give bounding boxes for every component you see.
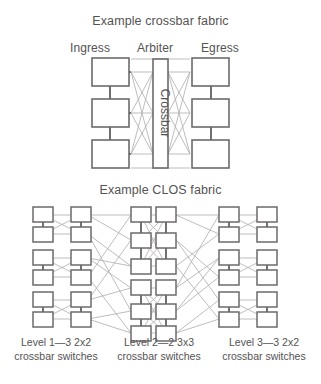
diagram-page: Example crossbar fabric Ingress Arbiter …	[0, 0, 321, 384]
egress-port-1	[192, 58, 229, 86]
crossbar-slab-label: Crossbar	[158, 89, 172, 138]
egress-port-3	[192, 140, 229, 168]
caption-level-2: Level 2—2 3x3 crossbar switches	[107, 336, 211, 363]
clos-switch-l3-3	[219, 292, 277, 327]
ingress-column	[92, 58, 131, 168]
ingress-port-1	[92, 58, 129, 86]
clos-figure-title: Example CLOS fabric	[0, 183, 321, 197]
clos-switch-l3-2	[219, 250, 277, 285]
clos-switch-l1-3	[33, 292, 91, 327]
clos-links-stage2-3	[176, 215, 219, 333]
caption-level-1: Level 1—3 2x2 crossbar switches	[4, 336, 108, 363]
clos-switch-l2-2	[131, 280, 176, 341]
ingress-port-2	[92, 99, 129, 127]
clos-links-stage1-2	[88, 215, 131, 333]
egress-column	[192, 58, 229, 168]
clos-switch-l1-1	[33, 207, 91, 242]
caption-level-3: Level 3—3 2x2 crossbar switches	[210, 336, 318, 363]
egress-port-2	[192, 99, 229, 127]
ingress-port-3	[92, 140, 129, 168]
clos-switch-l3-1	[219, 207, 277, 242]
crossbar-fabric-graphic: Crossbar	[92, 58, 229, 168]
clos-switch-l1-2	[33, 250, 91, 285]
clos-switch-l2-1	[131, 207, 176, 274]
clos-fabric-graphic	[33, 207, 277, 341]
